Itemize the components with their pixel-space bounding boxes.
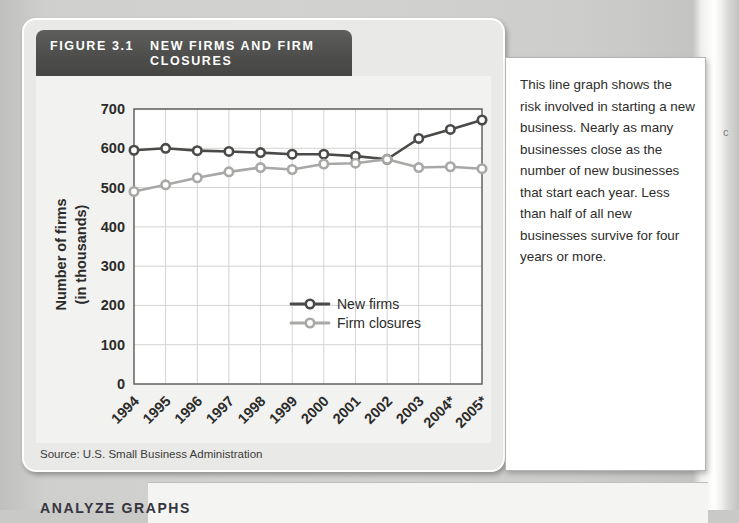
svg-text:100: 100 (101, 337, 125, 353)
bottom-section (148, 482, 708, 523)
svg-text:300: 300 (101, 258, 125, 274)
figure-note-card: This line graph shows the risk involved … (505, 57, 706, 471)
chart-panel: 0100200300400500600700199419951996199719… (36, 76, 491, 443)
svg-text:2005*: 2005* (452, 393, 490, 431)
svg-text:Firm closures: Firm closures (337, 315, 421, 331)
svg-text:400: 400 (101, 219, 125, 235)
svg-text:2001: 2001 (329, 393, 363, 427)
figure-card: FIGURE 3.1 NEW FIRMS AND FIRM CLOSURES 0… (22, 18, 505, 472)
figure-header: FIGURE 3.1 NEW FIRMS AND FIRM CLOSURES (36, 30, 352, 76)
svg-text:1994: 1994 (108, 393, 142, 427)
figure-number: FIGURE 3.1 (50, 39, 134, 53)
svg-text:1999: 1999 (266, 393, 300, 427)
svg-text:Number of firms: Number of firms (53, 199, 69, 311)
svg-text:600: 600 (101, 140, 125, 156)
svg-text:2002: 2002 (361, 393, 395, 427)
analyze-graphs-heading: ANALYZE GRAPHS (40, 500, 191, 516)
svg-text:New firms: New firms (337, 296, 399, 312)
svg-text:1995: 1995 (140, 393, 174, 427)
svg-text:1998: 1998 (235, 393, 269, 427)
svg-text:2000: 2000 (298, 393, 332, 427)
page-edge-mark: c (723, 126, 729, 138)
figure-title: NEW FIRMS AND FIRM CLOSURES (150, 39, 352, 69)
svg-text:700: 700 (101, 101, 125, 117)
line-chart: 0100200300400500600700199419951996199719… (36, 76, 491, 443)
svg-text:1996: 1996 (171, 393, 205, 427)
svg-text:200: 200 (101, 297, 125, 313)
svg-text:500: 500 (101, 180, 125, 196)
figure-note-text: This line graph shows the risk involved … (520, 74, 695, 268)
svg-text:1997: 1997 (203, 393, 237, 427)
svg-text:*Estimated: *Estimated (408, 441, 468, 443)
svg-text:(in thousands): (in thousands) (73, 204, 89, 304)
svg-text:0: 0 (117, 376, 125, 392)
svg-text:2004*: 2004* (420, 393, 458, 431)
figure-source: Source: U.S. Small Business Administrati… (40, 448, 262, 460)
